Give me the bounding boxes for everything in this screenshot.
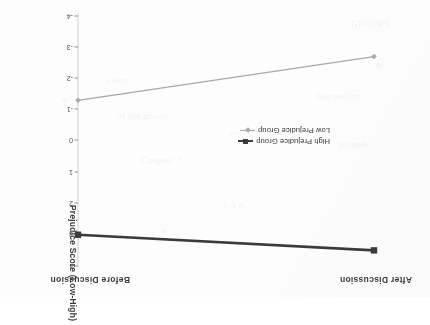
legend-label: Low Prejudice Group: [258, 126, 330, 135]
data-series-layer: [75, 54, 377, 254]
y-axis-tick-marks: [75, 16, 79, 266]
legend: High Prejudice GroupLow Prejudice Group: [238, 124, 330, 146]
legend-item[interactable]: High Prejudice Group: [238, 137, 330, 146]
data-point-marker: [371, 54, 377, 60]
legend-marker-square-icon: [238, 138, 253, 145]
series-line: [78, 57, 374, 101]
legend-item[interactable]: Low Prejudice Group: [238, 126, 330, 135]
legend-label: High Prejudice Group: [256, 137, 330, 146]
data-point-marker: [371, 247, 377, 253]
data-point-marker: [75, 232, 81, 238]
data-point-marker: [75, 98, 81, 104]
series-line: [78, 235, 374, 251]
legend-marker-diamond-icon: [240, 127, 255, 134]
